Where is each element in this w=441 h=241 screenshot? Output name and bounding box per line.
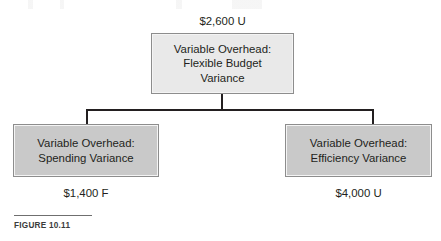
connector-horizontal-bar [86,109,374,111]
node-line: Variable Overhead: [174,42,271,57]
node-line: Variance [200,71,244,86]
efficiency-variance-amount: $4,000 U [285,186,432,200]
spending-variance-amount: $1,400 F [13,186,159,200]
connector-left-branch [86,109,88,125]
root-variance-amount: $2,600 U [151,14,294,28]
node-line: Variable Overhead: [37,136,134,151]
node-line: Variable Overhead: [310,136,407,151]
node-flexible-budget-variance: Variable Overhead: Flexible Budget Varia… [151,33,294,94]
variance-tree-diagram: $2,600 U Variable Overhead: Flexible Bud… [0,0,441,241]
connector-right-branch [372,109,374,125]
node-spending-variance: Variable Overhead: Spending Variance [13,124,159,177]
node-line: Spending Variance [38,151,133,166]
node-line: Efficiency Variance [311,151,407,166]
node-line: Flexible Budget [183,56,262,71]
figure-caption: FIGURE 10.11 [14,221,70,230]
caption-divider [14,215,92,216]
node-efficiency-variance: Variable Overhead: Efficiency Variance [285,124,432,177]
scan-artifact [0,0,441,9]
